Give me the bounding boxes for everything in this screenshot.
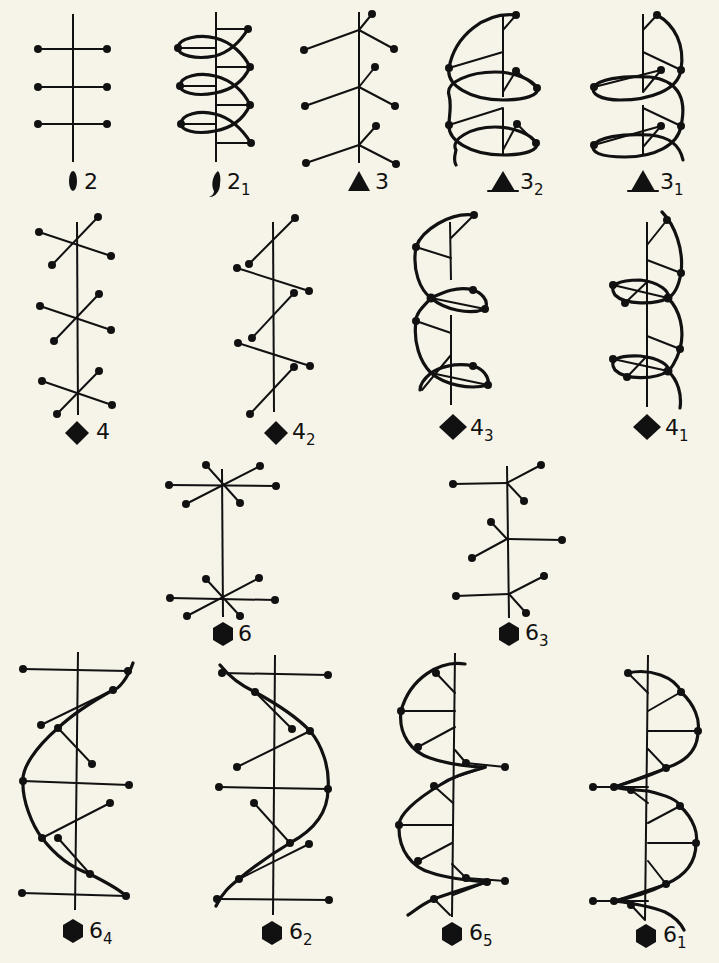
label-axis-3-1: 31 <box>660 171 684 193</box>
label-axis-4-3: 43 <box>470 417 494 439</box>
hexagon-screw-icon <box>636 924 656 948</box>
label-axis-4: 4 <box>96 421 110 443</box>
hexagon-screw-icon <box>262 921 282 945</box>
triangle-screw-icon <box>491 171 515 191</box>
label-axis-6-2: 62 <box>289 921 313 943</box>
axis-3-2-diagram <box>445 11 541 191</box>
axis-6-5-diagram <box>395 653 509 946</box>
axis-4-2-diagram <box>233 214 314 445</box>
axis-6-diagram <box>165 461 280 646</box>
square-screw-icon <box>633 414 661 440</box>
axis-4-3-diagram <box>412 211 492 440</box>
axis-6-2-diagram <box>213 655 333 945</box>
axis-2-diagram <box>34 14 111 191</box>
label-axis-6-1: 61 <box>663 924 687 946</box>
axis-4-1-diagram <box>609 212 685 440</box>
triangle-icon <box>348 171 370 191</box>
label-axis-4-1: 41 <box>665 417 689 439</box>
label-axis-2-1: 21 <box>227 171 251 193</box>
two-fold-lens-icon <box>69 171 77 191</box>
label-axis-6-5: 65 <box>469 922 493 944</box>
two-fold-screw-icon <box>209 171 220 197</box>
axis-2-1-diagram <box>174 12 255 197</box>
square-screw-icon <box>439 414 467 440</box>
hexagon-screw-icon <box>63 919 83 943</box>
label-axis-3-2: 32 <box>520 171 544 193</box>
label-axis-6: 6 <box>238 623 252 645</box>
square-icon <box>65 421 89 445</box>
label-axis-6-3: 63 <box>525 622 549 644</box>
label-axis-3: 3 <box>375 171 389 193</box>
axis-3-1-diagram <box>590 11 685 191</box>
axis-3-diagram <box>300 10 400 191</box>
triangle-screw-icon <box>631 170 655 191</box>
hexagon-screw-icon <box>499 622 519 646</box>
axis-6-3-diagram <box>449 461 566 646</box>
axis-6-1-diagram <box>589 655 702 948</box>
axis-6-4-diagram <box>18 652 133 943</box>
hexagon-icon <box>213 622 233 646</box>
symmetry-axes-figure: 2 21 3 32 31 4 42 43 41 6 63 64 62 65 61 <box>0 0 719 963</box>
hexagon-screw-icon <box>442 922 462 946</box>
square-screw-icon <box>264 421 288 445</box>
axis-4-diagram <box>35 213 116 445</box>
label-axis-4-2: 42 <box>292 421 316 443</box>
label-axis-6-4: 64 <box>89 920 113 942</box>
label-axis-2: 2 <box>84 171 98 193</box>
